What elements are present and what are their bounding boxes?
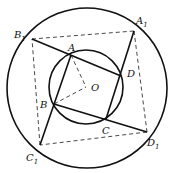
- segment-D1B: [54, 104, 147, 132]
- outer-circle: [7, 8, 167, 168]
- label-O: O: [91, 82, 99, 93]
- label-B: B: [39, 99, 47, 110]
- label-A1: A1: [135, 15, 148, 29]
- label-A: A: [67, 42, 75, 53]
- label-B1: B1: [13, 29, 26, 43]
- label-C: C: [102, 125, 110, 136]
- label-C1: C1: [26, 152, 38, 166]
- label-D: D: [126, 68, 135, 79]
- label-D1: D1: [146, 137, 160, 151]
- geometry-diagram: A D O B C A1 B1 C1 D1: [0, 0, 171, 173]
